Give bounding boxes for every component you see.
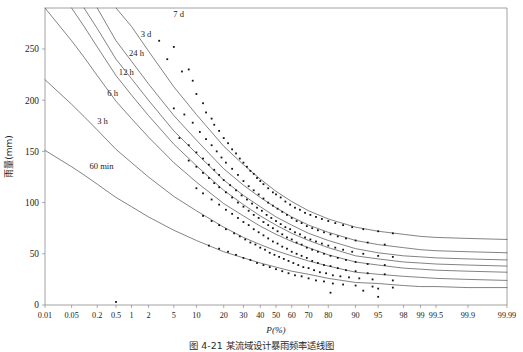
data-point (351, 226, 353, 228)
data-point (296, 242, 298, 244)
x-tick-label: 95 (374, 311, 382, 320)
data-point (248, 185, 250, 187)
data-point (345, 238, 347, 240)
data-point (259, 247, 261, 249)
data-point (269, 266, 271, 268)
data-point (248, 224, 250, 226)
data-point (243, 221, 245, 223)
data-point (218, 130, 220, 132)
data-point (227, 142, 229, 144)
data-point (275, 220, 277, 222)
data-point (377, 255, 379, 257)
data-point (202, 215, 204, 217)
data-point (211, 220, 213, 222)
data-point (280, 197, 282, 199)
data-point (327, 220, 329, 222)
data-point (196, 93, 198, 95)
data-point (267, 224, 269, 226)
data-point (166, 58, 168, 60)
data-point (306, 247, 308, 249)
data-point (264, 249, 266, 251)
data-point (291, 217, 293, 219)
data-point (309, 214, 311, 216)
data-point (235, 254, 237, 256)
data-point (277, 243, 279, 245)
data-point (202, 192, 204, 194)
data-point (281, 211, 283, 213)
data-point (225, 162, 227, 164)
data-point (291, 251, 293, 253)
curve-6-h (45, 8, 507, 272)
data-point (231, 168, 233, 170)
data-point (196, 152, 198, 154)
data-point (218, 186, 220, 188)
data-point (313, 269, 315, 271)
data-point (266, 214, 268, 216)
data-point (221, 157, 223, 159)
data-point (249, 170, 251, 172)
data-point (211, 199, 213, 201)
data-point (297, 264, 299, 266)
data-point (345, 259, 347, 261)
data-point (294, 207, 296, 209)
data-point (348, 276, 350, 278)
data-point (263, 264, 265, 266)
data-point (231, 148, 233, 150)
data-point (362, 228, 364, 230)
data-point (188, 144, 190, 146)
data-point (345, 269, 347, 271)
data-point (205, 112, 207, 114)
data-point (213, 169, 215, 171)
data-point (246, 166, 248, 168)
data-point (284, 226, 286, 228)
data-point (267, 238, 269, 240)
data-point (321, 243, 323, 245)
data-point (211, 144, 213, 146)
data-point (225, 209, 227, 211)
data-point (192, 122, 194, 124)
curve-label-7-d: 7 d (173, 9, 184, 19)
data-point (308, 277, 310, 279)
data-point (367, 263, 369, 265)
data-point (317, 251, 319, 253)
data-point (192, 80, 194, 82)
data-point (249, 242, 251, 244)
y-tick-label: 250 (25, 44, 39, 54)
data-point (315, 216, 317, 218)
curve-label-3-h: 3 h (97, 116, 108, 126)
curve-12-h (72, 8, 507, 266)
data-point (218, 224, 220, 226)
data-point (181, 71, 183, 73)
data-point (196, 187, 198, 189)
data-point (291, 239, 293, 241)
data-point (202, 172, 204, 174)
data-point (377, 296, 379, 298)
data-point (205, 138, 207, 140)
curve-7-d (116, 8, 507, 239)
y-tick-label: 50 (30, 249, 40, 259)
data-point (251, 203, 253, 205)
curve-label-60-min: 60 min (89, 161, 114, 171)
data-point (332, 274, 334, 276)
data-point (367, 242, 369, 244)
data-point (239, 158, 241, 160)
data-point (277, 230, 279, 232)
data-point (208, 177, 210, 179)
data-point (248, 210, 250, 212)
data-point (275, 268, 277, 270)
data-point (275, 193, 277, 195)
data-point (304, 212, 306, 214)
data-point (243, 180, 245, 182)
data-point (301, 255, 303, 257)
data-point (294, 274, 296, 276)
data-point (216, 150, 218, 152)
x-tick-label: 0.5 (111, 311, 121, 320)
data-point (284, 201, 286, 203)
data-point (231, 197, 233, 199)
curve-label-6-h: 6 h (107, 88, 118, 98)
x-tick-label: 40 (256, 311, 264, 320)
data-point (218, 204, 220, 206)
data-point (256, 262, 258, 264)
x-tick-label: 1 (129, 311, 133, 320)
